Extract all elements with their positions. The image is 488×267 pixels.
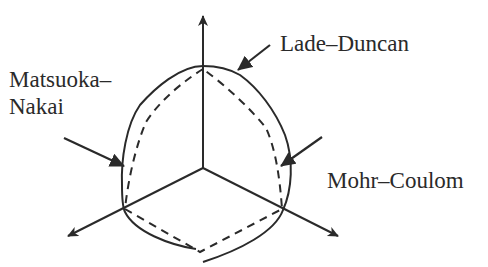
mohr-coulomb-label: Mohr–Coulom bbox=[327, 167, 464, 194]
axis-sigma3 bbox=[203, 168, 338, 236]
pointer-matsuoka-nakai bbox=[64, 138, 124, 166]
matsuoka-label-line2: Nakai bbox=[9, 93, 111, 120]
pointer-lade-duncan bbox=[238, 45, 270, 70]
yield-surface-diagram bbox=[0, 0, 488, 267]
lade-duncan-label: Lade–Duncan bbox=[280, 30, 409, 57]
matsuoka-label-line1: Matsuoka– bbox=[9, 66, 111, 93]
matsuoka-nakai-label: Matsuoka– Nakai bbox=[9, 66, 111, 120]
